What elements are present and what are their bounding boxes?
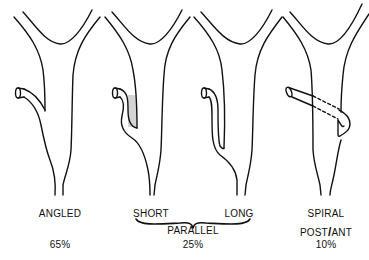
vessel-angled: [14, 10, 100, 195]
label-ant: ANT: [331, 227, 352, 238]
duct-spiral-bottom: [292, 97, 313, 106]
right-wall: [63, 17, 100, 195]
percent-angled: 65%: [50, 239, 71, 250]
percent-parallel: 25%: [183, 239, 204, 250]
branch-notch: [23, 10, 92, 44]
duct-behind-dashed: [313, 96, 339, 119]
duct-hook: [338, 110, 350, 136]
duct-lower: [24, 97, 55, 195]
vessel-spiral: [283, 4, 369, 195]
duct-spiral-top: [290, 88, 313, 96]
vessel-parallel-short: [105, 10, 190, 195]
label-angled: ANGLED: [39, 208, 81, 219]
label-post: POST: [300, 227, 328, 238]
cystic-duct-variants-diagram: [0, 0, 369, 260]
vessel-parallel-long: [194, 10, 282, 195]
percent-spiral: 10%: [316, 239, 337, 250]
label-short: SHORT: [133, 208, 169, 219]
label-post-ant: POST/ANT: [300, 225, 352, 239]
label-long: LONG: [224, 208, 253, 219]
duct-opening: [16, 88, 21, 98]
label-spiral: SPIRAL: [308, 208, 345, 219]
label-parallel: PARALLEL: [167, 225, 218, 236]
